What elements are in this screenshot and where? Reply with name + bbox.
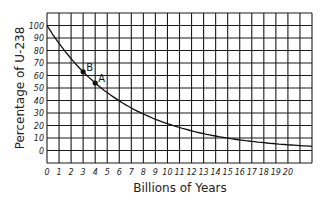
y-tick-label: 0 — [39, 147, 44, 156]
x-tick-label: 20 — [283, 168, 293, 177]
x-tick-label: 17 — [247, 168, 258, 177]
x-tick-label: 16 — [235, 168, 245, 177]
x-tick-label: 19 — [271, 168, 281, 177]
x-tick-label: 6 — [117, 168, 122, 177]
y-tick-label: 40 — [34, 97, 44, 106]
x-tick-label: 5 — [105, 168, 110, 177]
y-tick-label: 80 — [34, 47, 44, 56]
x-tick-label: 10 — [162, 168, 172, 177]
x-tick-labels: 01234567891011121314151617181920 — [44, 168, 293, 177]
x-tick-label: 4 — [93, 168, 98, 177]
y-tick-label: 10 — [34, 134, 44, 143]
x-tick-label: 8 — [141, 168, 146, 177]
y-tick-label: 60 — [34, 72, 44, 81]
chart: 01234567891011121314151617181920 0102030… — [0, 0, 328, 202]
annotations: BA — [81, 62, 106, 86]
y-tick-label: 70 — [34, 59, 44, 68]
x-tick-label: 7 — [129, 168, 135, 177]
y-tick-label: 90 — [34, 34, 44, 43]
grid — [47, 13, 312, 163]
x-tick-label: 18 — [259, 168, 269, 177]
x-tick-label: 15 — [223, 168, 233, 177]
y-tick-label: 100 — [29, 22, 44, 31]
x-tick-label: 0 — [44, 168, 49, 177]
y-tick-label: 50 — [34, 84, 44, 93]
x-tick-label: 14 — [211, 168, 221, 177]
point-b-marker — [81, 69, 86, 74]
y-tick-label: 20 — [34, 122, 44, 131]
point-a-marker — [93, 80, 98, 85]
x-axis-label: Billions of Years — [133, 181, 227, 195]
x-tick-label: 2 — [69, 168, 74, 177]
x-tick-label: 11 — [174, 168, 184, 177]
x-tick-label: 3 — [81, 168, 86, 177]
x-tick-label: 1 — [56, 168, 61, 177]
x-tick-label: 9 — [153, 168, 158, 177]
x-tick-label: 13 — [198, 168, 208, 177]
y-axis-label: Percentage of U-238 — [13, 27, 27, 150]
y-tick-label: 30 — [34, 109, 44, 118]
x-tick-label: 12 — [186, 168, 196, 177]
point-b-label: B — [86, 62, 93, 73]
point-a-label: A — [98, 73, 105, 84]
y-tick-labels: 0102030405060708090100 — [29, 22, 44, 156]
